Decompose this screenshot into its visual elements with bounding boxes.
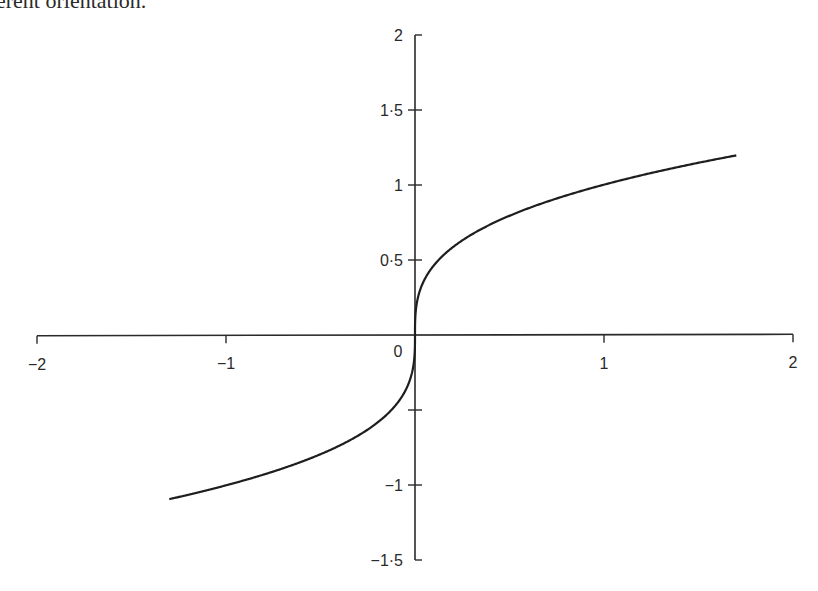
y-tick-label: −1 [385,477,403,494]
y-tick-label: 2 [394,27,403,44]
y-tick-label: 1 [394,177,403,194]
origin-label: 0 [394,343,403,360]
y-tick-label: −1·5 [371,552,404,569]
y-tick-label: 0·5 [380,252,403,269]
axes [37,35,793,560]
y-tick-label: 1·5 [380,102,403,119]
x-tick-label: −1 [217,355,235,372]
tick-labels: −2−1120−1·5−10·511·52 [28,27,798,569]
cube-root-chart: −2−1120−1·5−10·511·52 [0,0,818,591]
x-tick-label: 2 [789,354,798,371]
x-tick-label: −2 [28,356,46,373]
x-tick-label: 1 [600,355,609,372]
cube-root-curve [169,155,736,499]
